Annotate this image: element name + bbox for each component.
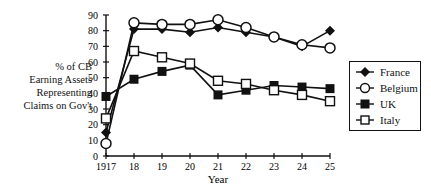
open-square-icon bbox=[186, 59, 195, 68]
y-tick-label: 20 bbox=[88, 119, 98, 130]
open-square-icon bbox=[158, 53, 167, 62]
open-circle-icon bbox=[129, 18, 139, 28]
series-lines bbox=[101, 15, 335, 149]
x-tick-label: 21 bbox=[213, 161, 223, 172]
open-circle-icon bbox=[157, 19, 167, 29]
open-circle-icon bbox=[356, 82, 374, 94]
open-square-icon bbox=[270, 86, 279, 95]
open-square-icon bbox=[242, 79, 251, 88]
y-tick-label: 70 bbox=[88, 41, 98, 52]
open-circle-icon bbox=[297, 40, 307, 50]
filled-square-icon bbox=[356, 98, 374, 110]
open-circle-icon bbox=[213, 15, 223, 25]
legend-item-belgium: Belgium bbox=[356, 81, 418, 95]
y-axis-label-line: Claims on Gov't bbox=[6, 99, 92, 112]
x-tick-label: 1917 bbox=[96, 161, 116, 172]
x-tick-label: 18 bbox=[129, 161, 139, 172]
filled-diamond-icon bbox=[325, 26, 335, 36]
y-axis-label-line: Earning Assets bbox=[6, 73, 92, 86]
y-axis-label-line: % of CB bbox=[6, 60, 92, 73]
open-square-icon bbox=[130, 47, 139, 56]
y-tick-label: 90 bbox=[88, 10, 98, 21]
legend: France Belgium UK Italy bbox=[349, 61, 421, 131]
open-square-icon bbox=[298, 90, 307, 99]
open-circle-icon bbox=[241, 23, 251, 33]
legend-label: France bbox=[380, 66, 410, 78]
y-axis-label-line: Representing bbox=[6, 86, 92, 99]
x-tick-label: 22 bbox=[241, 161, 251, 172]
legend-item-italy: Italy bbox=[356, 113, 400, 127]
legend-label: Belgium bbox=[380, 82, 418, 94]
legend-label: Italy bbox=[380, 114, 400, 126]
open-square-icon bbox=[326, 97, 335, 106]
filled-square-icon bbox=[158, 67, 167, 76]
open-square-icon bbox=[356, 114, 374, 126]
x-tick-label: 20 bbox=[185, 161, 195, 172]
x-tick-label: 19 bbox=[157, 161, 167, 172]
x-tick-labels: 19171819202122232425 bbox=[96, 161, 335, 172]
legend-label: UK bbox=[380, 98, 396, 110]
x-tick-label: 23 bbox=[269, 161, 279, 172]
open-square-icon bbox=[102, 114, 111, 123]
y-axis-label: % of CB Earning Assets Representing Clai… bbox=[6, 60, 92, 112]
x-tick-label: 25 bbox=[325, 161, 335, 172]
y-tick-label: 0 bbox=[93, 151, 98, 162]
y-tick-label: 80 bbox=[88, 25, 98, 36]
filled-square-icon bbox=[130, 75, 139, 84]
x-tick-label: 24 bbox=[297, 161, 307, 172]
open-circle-icon bbox=[325, 43, 335, 53]
legend-item-france: France bbox=[356, 65, 410, 79]
filled-diamond-icon bbox=[356, 66, 374, 78]
open-square-icon bbox=[214, 76, 223, 85]
filled-square-icon bbox=[102, 92, 111, 101]
legend-item-uk: UK bbox=[356, 97, 396, 111]
open-circle-icon bbox=[269, 32, 279, 42]
filled-square-icon bbox=[326, 84, 335, 93]
open-circle-icon bbox=[101, 138, 111, 148]
y-tick-label: 10 bbox=[88, 135, 98, 146]
x-axis-label: Year bbox=[208, 173, 229, 185]
open-circle-icon bbox=[185, 19, 195, 29]
filled-square-icon bbox=[214, 90, 223, 99]
